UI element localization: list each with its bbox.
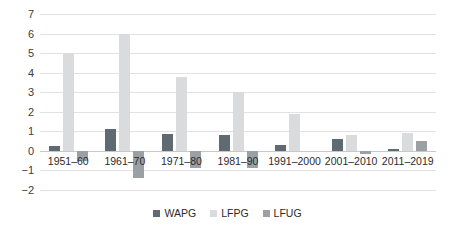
gridline	[40, 170, 436, 171]
bar-lfpg-5	[346, 135, 357, 151]
y-axis-tick-label: 3	[10, 87, 34, 98]
y-axis-tick-label: −2	[10, 185, 34, 196]
bar-lfpg-0	[63, 53, 74, 151]
x-axis-category-label: 1981–90	[218, 156, 259, 167]
legend-swatch-icon	[153, 210, 160, 217]
legend-swatch-icon	[210, 210, 217, 217]
legend-item-wapg[interactable]: WAPG	[153, 208, 196, 219]
legend-label: LFPG	[221, 208, 248, 219]
gridline	[40, 73, 436, 74]
y-axis-tick-label: 6	[10, 28, 34, 39]
zero-line	[40, 151, 436, 152]
bar-wapg-4	[275, 145, 286, 151]
y-axis-tick-label: 7	[10, 9, 34, 20]
x-axis-category-label: 2001–2010	[325, 156, 378, 167]
gridline	[40, 190, 436, 191]
bar-wapg-5	[332, 139, 343, 151]
y-axis-tick-label: −1	[10, 165, 34, 176]
gridline	[40, 53, 436, 54]
x-axis-category-label: 1971–80	[161, 156, 202, 167]
bar-wapg-6	[388, 149, 399, 151]
legend-item-lfpg[interactable]: LFPG	[210, 208, 248, 219]
y-axis-tick-label: 1	[10, 126, 34, 137]
bar-lfug-6	[416, 141, 427, 151]
legend-item-lfug[interactable]: LFUG	[263, 208, 302, 219]
bar-wapg-2	[162, 134, 173, 151]
x-axis-category-label: 2011–2019	[382, 156, 434, 167]
bar-chart: 76543210−1−2 1951–601961–701971–801981–9…	[0, 0, 455, 241]
legend-swatch-icon	[263, 210, 270, 217]
bar-lfug-5	[360, 151, 371, 154]
chart-legend: WAPGLFPGLFUG	[0, 208, 455, 219]
bar-wapg-1	[105, 129, 116, 151]
x-axis-category-label: 1961–70	[104, 156, 145, 167]
x-axis-category-label: 1951–60	[48, 156, 89, 167]
y-axis-tick-label: 0	[10, 145, 34, 156]
bar-lfpg-4	[289, 114, 300, 151]
bar-lfpg-2	[176, 77, 187, 151]
legend-label: LFUG	[274, 208, 302, 219]
bar-lfpg-3	[233, 92, 244, 151]
x-axis-category-label: 1991–2000	[268, 156, 321, 167]
bar-wapg-0	[49, 146, 60, 151]
legend-label: WAPG	[164, 208, 196, 219]
y-axis-tick-label: 4	[10, 67, 34, 78]
gridline	[40, 34, 436, 35]
y-axis-tick-label: 2	[10, 106, 34, 117]
bar-wapg-3	[219, 135, 230, 151]
gridline	[40, 14, 436, 15]
bar-lfpg-6	[402, 133, 413, 151]
bar-lfpg-1	[119, 34, 130, 151]
y-axis-tick-label: 5	[10, 48, 34, 59]
